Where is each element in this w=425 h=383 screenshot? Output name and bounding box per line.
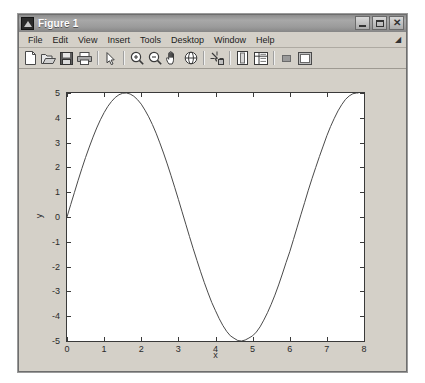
y-tick-label: 0 [55, 212, 60, 222]
print-figure-icon[interactable] [76, 50, 93, 67]
x-tick-top [216, 93, 217, 97]
menu-item-view[interactable]: View [73, 33, 102, 47]
y-tick [67, 217, 71, 218]
y-tick-label: 3 [55, 138, 60, 148]
y-tick-right [360, 93, 364, 94]
rotate-3d-icon[interactable] [182, 50, 199, 67]
separator-3 [203, 51, 205, 65]
x-tick-top [141, 93, 142, 97]
y-tick [67, 118, 71, 119]
data-cursor-icon[interactable] [208, 50, 225, 67]
y-tick-right [360, 316, 364, 317]
y-tick [67, 341, 71, 342]
save-figure-icon[interactable] [58, 50, 75, 67]
menu-item-window[interactable]: Window [209, 33, 251, 47]
x-tick [178, 337, 179, 341]
x-tick [216, 337, 217, 341]
figure-canvas[interactable]: 012345678 543210-1-2-3-4-5 x y [19, 70, 406, 371]
minimize-button[interactable] [355, 16, 370, 30]
axes-box[interactable] [66, 92, 365, 342]
y-tick [67, 316, 71, 317]
y-tick-label: -5 [52, 336, 60, 346]
insert-colorbar-icon[interactable] [234, 50, 251, 67]
screenshot-root: Figure 1 ✕ File Edit View Insert Tools D… [0, 0, 425, 383]
insert-legend-icon[interactable] [252, 50, 269, 67]
y-tick [67, 143, 71, 144]
x-tick-top [327, 93, 328, 97]
x-tick [141, 337, 142, 341]
maximize-icon [376, 20, 384, 27]
menu-item-file[interactable]: File [23, 33, 48, 47]
y-tick-right [360, 192, 364, 193]
x-tick [327, 337, 328, 341]
y-tick-right [360, 167, 364, 168]
y-tick [67, 93, 71, 94]
menu-overflow-icon[interactable]: ◢ [395, 36, 402, 43]
toolbar [19, 48, 406, 69]
y-tick-label: 4 [55, 113, 60, 123]
y-tick-label: 2 [55, 162, 60, 172]
y-tick-label: -3 [52, 286, 60, 296]
menu-item-edit[interactable]: Edit [48, 33, 74, 47]
y-tick-right [360, 143, 364, 144]
y-tick [67, 167, 71, 168]
zoom-in-icon[interactable] [128, 50, 145, 67]
plot-line [67, 93, 358, 341]
menu-item-tools[interactable]: Tools [135, 33, 166, 47]
y-tick [67, 267, 71, 268]
y-tick-label: -2 [52, 262, 60, 272]
y-tick-label: 5 [55, 88, 60, 98]
menu-item-help[interactable]: Help [251, 33, 280, 47]
open-file-icon[interactable] [40, 50, 57, 67]
y-tick-right [360, 291, 364, 292]
x-tick [253, 337, 254, 341]
matlab-figure-icon [21, 17, 34, 30]
y-tick-right [360, 217, 364, 218]
line-series-5sinx [67, 93, 364, 341]
title-bar[interactable]: Figure 1 ✕ [19, 15, 406, 32]
figure-window: Figure 1 ✕ File Edit View Insert Tools D… [18, 14, 407, 372]
x-tick [364, 337, 365, 341]
x-tick-top [364, 93, 365, 97]
separator-1 [97, 51, 99, 65]
x-tick-top [104, 93, 105, 97]
x-tick [290, 337, 291, 341]
x-tick-top [178, 93, 179, 97]
hide-plot-tools-icon[interactable] [278, 50, 295, 67]
new-figure-icon[interactable] [22, 50, 39, 67]
y-tick-label: -4 [52, 311, 60, 321]
minimize-icon [359, 25, 366, 27]
menu-bar: File Edit View Insert Tools Desktop Wind… [19, 32, 406, 48]
y-tick [67, 242, 71, 243]
window-controls: ✕ [355, 16, 404, 30]
x-axis-label: x [66, 350, 365, 360]
y-tick-label: 1 [55, 187, 60, 197]
y-tick [67, 192, 71, 193]
y-axis-label: y [34, 214, 44, 219]
separator-2 [123, 51, 125, 65]
x-tick-top [253, 93, 254, 97]
menu-item-insert[interactable]: Insert [102, 33, 135, 47]
zoom-out-icon[interactable] [146, 50, 163, 67]
y-tick-right [360, 118, 364, 119]
y-tick-right [360, 267, 364, 268]
y-tick-right [360, 242, 364, 243]
edit-plot-pointer-icon[interactable] [102, 50, 119, 67]
x-tick-top [290, 93, 291, 97]
y-tick-right [360, 341, 364, 342]
menu-item-desktop[interactable]: Desktop [166, 33, 209, 47]
close-icon: ✕ [393, 18, 401, 28]
show-plot-tools-icon[interactable] [296, 50, 313, 67]
y-tick [67, 291, 71, 292]
x-tick [104, 337, 105, 341]
maximize-button[interactable] [372, 16, 387, 30]
close-button[interactable]: ✕ [389, 16, 404, 30]
separator-4 [229, 51, 231, 65]
pan-hand-icon[interactable] [164, 50, 181, 67]
separator-5 [273, 51, 275, 65]
y-tick-label: -1 [52, 237, 60, 247]
window-title: Figure 1 [38, 18, 79, 29]
